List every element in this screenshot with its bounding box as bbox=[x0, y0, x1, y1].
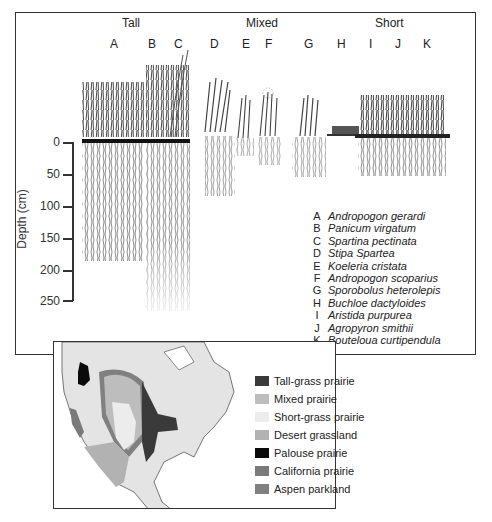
map-legend: Tall-grass prairie Mixed prairie Short-g… bbox=[255, 372, 364, 498]
legend-row-i: IAristida purpurea bbox=[311, 309, 441, 321]
y-tick-100 bbox=[63, 206, 73, 208]
legend-species-name: Aristida purpurea bbox=[328, 309, 412, 321]
map-legend-label: Desert grassland bbox=[274, 429, 357, 441]
legend-species-name: Andropogon scoparius bbox=[328, 272, 438, 284]
map-legend-label: Palouse prairie bbox=[274, 447, 347, 459]
y-tick-label-150: 150 bbox=[24, 231, 60, 245]
y-tick-50 bbox=[63, 174, 73, 176]
legend-key: D bbox=[311, 247, 323, 259]
y-tick-label-250: 250 bbox=[24, 294, 60, 308]
legend-row-b: BPanicum virgatum bbox=[311, 222, 441, 234]
legend-species-name: Buchloe dactyloides bbox=[328, 297, 426, 309]
legend-species-name: Andropogon gerardi bbox=[328, 210, 425, 222]
legend-key: F bbox=[311, 272, 323, 284]
y-tick-0 bbox=[63, 142, 73, 144]
legend-key: B bbox=[311, 222, 323, 234]
swatch-icon bbox=[255, 484, 269, 494]
y-tick-label-0: 0 bbox=[24, 135, 60, 149]
legend-row-e: EKoeleria cristata bbox=[311, 260, 441, 272]
legend-species-name: Agropyron smithii bbox=[328, 322, 413, 334]
legend-key: J bbox=[311, 322, 323, 334]
map-legend-aspen: Aspen parkland bbox=[255, 480, 364, 498]
legend-row-g: GSporobolus heterolepis bbox=[311, 284, 441, 296]
legend-key: E bbox=[311, 260, 323, 272]
legend-row-h: HBuchloe dactyloides bbox=[311, 297, 441, 309]
map-legend-label: Short-grass prairie bbox=[274, 411, 364, 423]
map-legend-palouse: Palouse prairie bbox=[255, 444, 364, 462]
swatch-icon bbox=[255, 466, 269, 476]
y-tick-label-200: 200 bbox=[24, 263, 60, 277]
species-legend: AAndropogon gerardi BPanicum virgatum CS… bbox=[311, 210, 441, 346]
map-legend-tall-grass: Tall-grass prairie bbox=[255, 372, 364, 390]
map-legend-desert: Desert grassland bbox=[255, 426, 364, 444]
legend-species-name: Panicum virgatum bbox=[328, 222, 416, 234]
map-legend-label: California prairie bbox=[274, 465, 354, 477]
swatch-icon bbox=[255, 412, 269, 422]
y-tick-250 bbox=[63, 300, 73, 302]
map-legend-mixed: Mixed prairie bbox=[255, 390, 364, 408]
y-tick-label-100: 100 bbox=[24, 199, 60, 213]
swatch-icon bbox=[255, 376, 269, 386]
legend-key: I bbox=[311, 309, 323, 321]
y-axis-label: Depth (cm) bbox=[15, 189, 29, 248]
legend-row-d: DStipa Spartea bbox=[311, 247, 441, 259]
y-tick-200 bbox=[63, 270, 73, 272]
legend-species-name: Koeleria cristata bbox=[328, 260, 407, 272]
legend-row-f: FAndropogon scoparius bbox=[311, 272, 441, 284]
legend-key: H bbox=[311, 297, 323, 309]
legend-key: G bbox=[311, 284, 323, 296]
map-legend-short-grass: Short-grass prairie bbox=[255, 408, 364, 426]
map-legend-label: Tall-grass prairie bbox=[274, 375, 355, 387]
legend-species-name: Spartina pectinata bbox=[328, 235, 417, 247]
y-axis-line bbox=[72, 142, 74, 301]
map-legend-california: California prairie bbox=[255, 462, 364, 480]
swatch-icon bbox=[255, 448, 269, 458]
legend-row-a: AAndropogon gerardi bbox=[311, 210, 441, 222]
legend-species-name: Bouteloua curtipendula bbox=[328, 334, 441, 346]
map-legend-label: Aspen parkland bbox=[274, 483, 350, 495]
y-tick-150 bbox=[63, 238, 73, 240]
legend-species-name: Stipa Spartea bbox=[328, 247, 395, 259]
swatch-icon bbox=[255, 430, 269, 440]
legend-species-name: Sporobolus heterolepis bbox=[328, 284, 441, 296]
swatch-icon bbox=[255, 394, 269, 404]
legend-row-j: JAgropyron smithii bbox=[311, 322, 441, 334]
y-tick-label-50: 50 bbox=[24, 167, 60, 181]
legend-row-c: CSpartina pectinata bbox=[311, 235, 441, 247]
legend-key: A bbox=[311, 210, 323, 222]
map-legend-label: Mixed prairie bbox=[274, 393, 337, 405]
legend-key: C bbox=[311, 235, 323, 247]
